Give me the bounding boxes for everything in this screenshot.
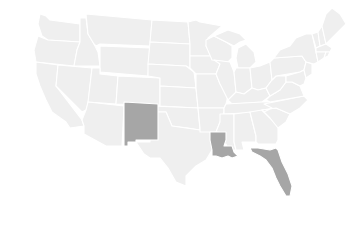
- state-washington[interactable]: [38, 14, 80, 42]
- state-montana[interactable]: [86, 14, 152, 46]
- state-colorado[interactable]: [116, 76, 160, 106]
- state-wyoming[interactable]: [100, 46, 150, 76]
- state-florida[interactable]: [250, 148, 292, 196]
- us-choropleth-map: [0, 0, 361, 238]
- state-kansas[interactable]: [160, 86, 198, 108]
- state-north-dakota[interactable]: [150, 20, 190, 44]
- state-arizona[interactable]: [82, 102, 124, 146]
- state-new-jersey[interactable]: [304, 62, 312, 78]
- state-new-mexico[interactable]: [124, 102, 158, 146]
- state-maine[interactable]: [322, 8, 346, 44]
